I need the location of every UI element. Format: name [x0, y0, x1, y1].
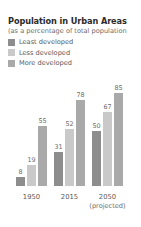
bar-rect [92, 131, 101, 186]
bar-value-label: 52 [65, 121, 73, 128]
bar-rect [38, 126, 47, 187]
x-axis-tick-2050-annotation: (projected) [84, 202, 131, 211]
bar-item: 31 [54, 76, 63, 186]
bar-value-label: 19 [27, 157, 35, 164]
bar-value-label: 55 [38, 118, 46, 125]
bar-value-label: 78 [76, 92, 84, 99]
x-axis-tick-1950: 1950 [16, 193, 47, 202]
bar-item: 78 [76, 76, 85, 186]
x-axis-tick-2050: 2050 [92, 193, 123, 202]
bar-value-label: 8 [18, 169, 22, 176]
bar-rect [27, 165, 36, 186]
bar-item: 50 [92, 76, 101, 186]
plot-area: 8 19 55 31 52 78 [0, 0, 141, 227]
bar-value-label: 50 [92, 123, 100, 130]
bar-group-2015: 31 52 78 [54, 76, 85, 186]
bar-value-label: 85 [114, 85, 122, 92]
bar-rect [76, 100, 85, 186]
bar-rect [16, 177, 25, 186]
bar-item: 67 [103, 76, 112, 186]
bar-value-label: 67 [103, 104, 111, 111]
bar-item: 19 [27, 76, 36, 186]
bar-item: 55 [38, 76, 47, 186]
bar-item: 85 [114, 76, 123, 186]
bar-rect [114, 93, 123, 187]
bar-rect [65, 129, 74, 186]
bar-rect [54, 152, 63, 186]
chart-figure: Population in Urban Areas (as a percenta… [0, 0, 141, 227]
bar-item: 52 [65, 76, 74, 186]
bar-rect [103, 112, 112, 186]
bar-group-1950: 8 19 55 [16, 76, 47, 186]
bar-group-2050: 50 67 85 [92, 76, 123, 186]
x-axis-tick-2015: 2015 [54, 193, 85, 202]
bar-value-label: 31 [54, 144, 62, 151]
bar-item: 8 [16, 76, 25, 186]
